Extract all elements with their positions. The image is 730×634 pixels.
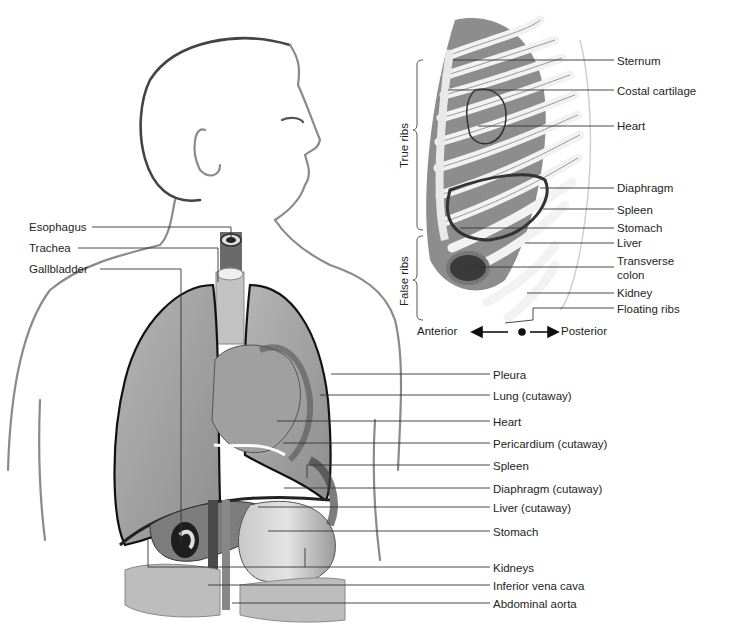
trachea-esophagus bbox=[216, 232, 244, 344]
rib-label-floating-ribs: Floating ribs bbox=[617, 303, 680, 316]
bracket-label-true-ribs: True ribs bbox=[398, 123, 410, 168]
label-pericardium-cutaway: Pericardium (cutaway) bbox=[493, 438, 607, 451]
rib-label-heart: Heart bbox=[617, 120, 645, 133]
orientation-anterior: Anterior bbox=[417, 325, 457, 337]
label-trachea: Trachea bbox=[29, 242, 71, 255]
rib-label-sternum: Sternum bbox=[617, 55, 660, 68]
rib-label-stomach: Stomach bbox=[617, 222, 662, 235]
orientation-arrows bbox=[472, 327, 558, 337]
label-esophagus: Esophagus bbox=[29, 221, 87, 234]
rib-brackets bbox=[413, 60, 423, 320]
orientation-posterior: Posterior bbox=[561, 325, 607, 337]
label-kidneys: Kidneys bbox=[493, 562, 534, 575]
label-inferior-vena-cava: Inferior vena cava bbox=[493, 580, 584, 593]
rib-label-spleen: Spleen bbox=[617, 204, 653, 217]
rib-label-kidney: Kidney bbox=[617, 287, 652, 300]
label-stomach: Stomach bbox=[493, 526, 538, 539]
rib-label-costal-cartilage: Costal cartilage bbox=[617, 85, 696, 98]
rib-label-diaphragm: Diaphragm bbox=[617, 182, 673, 195]
label-heart: Heart bbox=[493, 416, 521, 429]
rib-label-colon: colon bbox=[617, 269, 645, 282]
label-abdominal-aorta: Abdominal aorta bbox=[493, 598, 577, 611]
rib-label-transverse: Transverse bbox=[617, 255, 674, 268]
label-diaphragm-cutaway: Diaphragm (cutaway) bbox=[493, 483, 602, 496]
label-gallbladder: Gallbladder bbox=[29, 263, 88, 276]
label-pleura: Pleura bbox=[493, 369, 526, 382]
label-lung-cutaway: Lung (cutaway) bbox=[493, 390, 572, 403]
ribcage-inset bbox=[426, 18, 590, 318]
label-liver-cutaway: Liver (cutaway) bbox=[493, 502, 571, 515]
bracket-label-false-ribs: False ribs bbox=[398, 256, 410, 306]
label-spleen: Spleen bbox=[493, 460, 529, 473]
rib-label-liver: Liver bbox=[617, 237, 642, 250]
